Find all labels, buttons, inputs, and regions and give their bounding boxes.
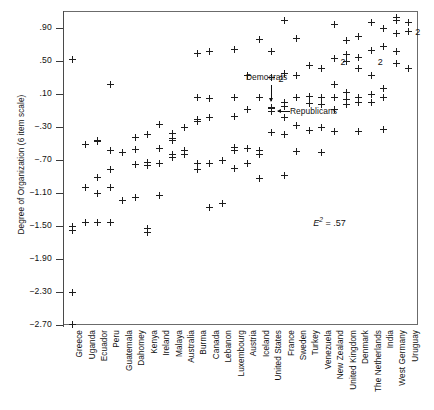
- data-point-marker: [132, 194, 139, 201]
- overlap-count-label: 2: [378, 57, 383, 67]
- x-axis-category-label: United States: [274, 330, 283, 380]
- data-point-marker: [194, 160, 201, 167]
- data-point-marker: [69, 223, 76, 230]
- y-axis-tick-label: −1.50: [29, 220, 52, 230]
- data-point-marker: [206, 160, 213, 167]
- data-point-marker: [231, 94, 238, 101]
- data-point-marker: [231, 147, 238, 154]
- data-point-marker: [343, 101, 350, 108]
- data-point-marker: [82, 219, 89, 226]
- data-point-marker: [380, 43, 387, 50]
- data-point-marker: [119, 149, 126, 156]
- data-point-marker: [244, 160, 251, 167]
- data-point-marker: [293, 122, 300, 129]
- data-point-marker: [318, 149, 325, 156]
- y-axis-tick-label: −1.10: [29, 187, 52, 197]
- e-squared-value: = .57: [325, 218, 345, 228]
- data-point-marker: [107, 81, 114, 88]
- x-axis-category-label: Turkey: [311, 330, 320, 355]
- data-point-marker: [94, 138, 101, 145]
- x-axis-category-label: New Zealand: [336, 330, 345, 379]
- data-point-marker: [306, 62, 313, 69]
- data-point-marker: [169, 151, 176, 158]
- data-point-marker: [169, 130, 176, 137]
- data-point-marker: [156, 160, 163, 167]
- scatter-plot-figure: Degree of Organization (6 item scale) .9…: [0, 0, 434, 410]
- data-point-marker: [393, 48, 400, 55]
- data-point-marker: [293, 35, 300, 42]
- data-point-marker: [331, 81, 338, 88]
- data-point-marker: [181, 151, 188, 158]
- data-point-marker: [306, 93, 313, 100]
- data-point-marker: [256, 36, 263, 43]
- data-point-marker: [331, 55, 338, 62]
- data-point-marker: [107, 166, 114, 173]
- y-axis-tick-label: −2.30: [29, 286, 52, 296]
- x-axis-category-label: Iceland: [262, 330, 271, 357]
- data-point-marker: [306, 127, 313, 134]
- data-point-marker: [256, 175, 263, 182]
- data-point-marker: [268, 48, 275, 55]
- data-point-marker: [107, 219, 114, 226]
- x-axis-category-label: Peru: [112, 330, 121, 348]
- x-axis-category-label: Burma: [199, 330, 208, 355]
- y-axis-tick-label: −.30: [34, 121, 52, 131]
- data-point-marker: [69, 289, 76, 296]
- x-axis-category-label: France: [287, 330, 296, 356]
- data-point-marker: [94, 219, 101, 226]
- data-point-marker: [380, 94, 387, 101]
- y-axis-tick-label: −2.70: [29, 319, 52, 329]
- data-point-marker: [343, 96, 350, 103]
- data-point-marker: [268, 129, 275, 136]
- data-point-marker: [231, 165, 238, 172]
- data-point-marker: [281, 172, 288, 179]
- x-axis-category-label: Australia: [187, 330, 196, 363]
- x-axis-category-label: Dahomey: [137, 330, 146, 366]
- data-point-marker: [94, 137, 101, 144]
- data-point-marker: [231, 46, 238, 53]
- overlap-count-label: 2: [415, 27, 420, 37]
- data-point-marker: [393, 14, 400, 21]
- data-point-marker: [156, 192, 163, 199]
- data-point-marker: [156, 121, 163, 128]
- x-axis-category-label: Luxembourg: [237, 330, 246, 377]
- data-point-marker: [331, 94, 338, 101]
- data-point-marker: [393, 60, 400, 67]
- data-point-marker: [144, 131, 151, 138]
- data-point-marker: [368, 72, 375, 79]
- y-axis-tick-label: .90: [39, 22, 52, 32]
- x-axis-category-label: Guatemala: [125, 330, 134, 371]
- x-axis-category-label: Uganda: [88, 330, 97, 359]
- data-point-marker: [119, 197, 126, 204]
- data-point-marker: [194, 166, 201, 173]
- x-axis-category-label: United Kingdom: [349, 330, 358, 390]
- data-point-marker: [380, 25, 387, 32]
- x-axis-category-label: Venezuela: [324, 330, 333, 369]
- data-point-marker: [380, 85, 387, 92]
- data-point-marker: [256, 147, 263, 154]
- democrats-arrow-icon: [271, 85, 272, 102]
- data-point-marker: [281, 17, 288, 24]
- data-point-marker: [169, 135, 176, 142]
- y-axis-tick-label: .10: [39, 88, 52, 98]
- data-point-marker: [69, 227, 76, 234]
- data-point-marker: [169, 137, 176, 144]
- data-point-marker: [368, 19, 375, 26]
- data-point-marker: [318, 65, 325, 72]
- overlap-count-label: 2: [341, 57, 346, 67]
- x-axis-category-label: Sweden: [299, 330, 308, 360]
- y-axis-tick-label: −.70: [34, 154, 52, 164]
- x-axis-category-label: Greece: [75, 330, 84, 357]
- data-point-marker: [380, 126, 387, 133]
- e-squared-exponent: 2: [319, 216, 323, 223]
- data-point-marker: [331, 21, 338, 28]
- data-point-marker: [219, 157, 226, 164]
- data-point-marker: [368, 47, 375, 54]
- data-point-marker: [281, 131, 288, 138]
- data-point-marker: [355, 65, 362, 72]
- data-point-marker: [244, 145, 251, 152]
- data-point-marker: [194, 118, 201, 125]
- data-point-marker: [368, 99, 375, 106]
- data-point-marker: [231, 113, 238, 120]
- data-point-marker: [231, 144, 238, 151]
